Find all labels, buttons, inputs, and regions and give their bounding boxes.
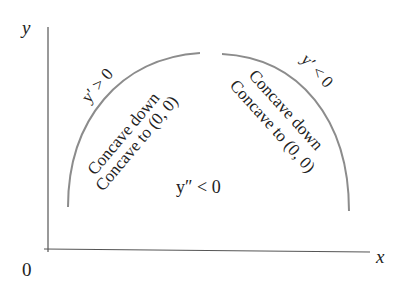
second-derivative-label: y″ < 0 [176,177,221,197]
left-slope-label: y′ > 0 [78,65,118,107]
origin-label: 0 [22,259,32,280]
x-axis [44,249,370,252]
concavity-diagram: y x 0 y′ > 0 Concave down Concave to (0,… [0,0,403,297]
y-axis-label: y [20,17,31,38]
x-axis-label: x [375,246,385,267]
right-slope-label: y′ < 0 [297,50,337,92]
